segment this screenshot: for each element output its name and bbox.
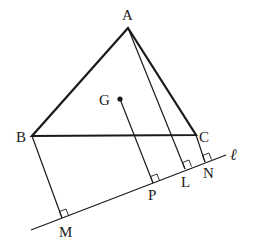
segment-bm: [32, 136, 62, 218]
line-l: [31, 155, 226, 230]
centroid-point-g: [117, 96, 122, 101]
label-a: A: [122, 7, 133, 23]
label-line-l: ℓ: [230, 146, 237, 163]
triangle-abc: [32, 28, 196, 136]
geometry-diagram: A B C G M P L N ℓ: [0, 0, 255, 242]
segment-gp: [120, 99, 153, 183]
label-g: G: [99, 92, 110, 108]
label-m: M: [59, 224, 72, 240]
label-c: C: [199, 129, 209, 145]
label-p: P: [148, 187, 156, 203]
label-l: L: [181, 174, 190, 190]
label-b: B: [16, 129, 26, 145]
label-n: N: [203, 165, 214, 181]
segment-al: [128, 28, 185, 169]
